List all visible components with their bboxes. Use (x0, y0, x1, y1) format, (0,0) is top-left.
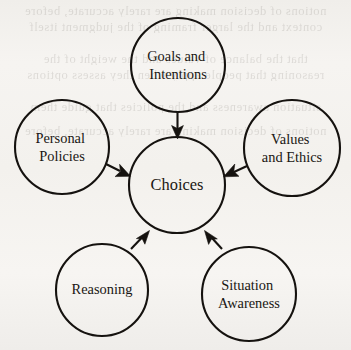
node-reasoning[interactable]: Reasoning (56, 244, 148, 336)
node-situation-awareness[interactable]: Situation Awareness (202, 247, 296, 341)
arrow-goals-to-choices (172, 112, 184, 139)
node-label-line: and Ethics (262, 149, 323, 165)
node-label-line: Personal (35, 130, 85, 146)
node-label-line: Values (271, 131, 310, 147)
node-label-line: Awareness (218, 295, 280, 311)
node-label-reasoning: Reasoning (72, 281, 133, 297)
arrow-values-to-choices (224, 164, 248, 177)
node-label-line: Goals and (147, 48, 206, 64)
arrow-reasoning-to-choices (131, 231, 150, 250)
node-label-line: Intentions (149, 66, 207, 82)
arrow-shaft (106, 164, 120, 171)
node-label-line: Reasoning (72, 281, 133, 297)
arrow-situation-awareness-to-choices (205, 231, 223, 250)
node-label-line: Choices (151, 175, 204, 194)
arrow-shaft (234, 166, 247, 172)
node-label-line: Situation (221, 277, 273, 293)
node-label-goals-and-intentions: Goals and Intentions (147, 48, 209, 82)
arrow-personal-policies-to-choices (106, 164, 131, 177)
node-label-choices: Choices (151, 175, 204, 194)
node-personal-policies[interactable]: Personal Policies (15, 100, 109, 194)
node-goals-and-intentions[interactable]: Goals and Intentions (131, 18, 225, 112)
node-label-situation-awareness: Situation Awareness (218, 277, 280, 311)
node-label-personal-policies: Personal Policies (35, 130, 88, 164)
node-values-and-ethics[interactable]: Values and Ethics (244, 100, 340, 196)
hub-and-spoke-diagram: Goals and Intentions Personal Policies V… (0, 0, 351, 350)
node-choices[interactable]: Choices (129, 137, 225, 233)
node-label-line: Policies (39, 148, 85, 164)
arrow-shaft (212, 238, 222, 249)
arrow-shaft (131, 238, 142, 249)
figure-canvas: notions of decision making are rarely ac… (0, 0, 351, 350)
